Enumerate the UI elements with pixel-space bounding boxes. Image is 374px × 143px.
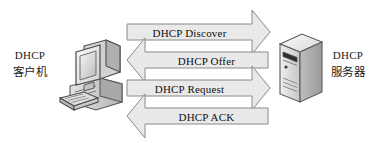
arrow-label-discover: DHCP Discover [127, 28, 252, 39]
arrow-label-offer: DHCP Offer [145, 56, 268, 67]
arrow-label-ack: DHCP ACK [145, 112, 268, 123]
arrow-label-request: DHCP Request [127, 84, 252, 95]
dhcp-handshake-diagram: DHCP 客户机 [0, 0, 374, 143]
